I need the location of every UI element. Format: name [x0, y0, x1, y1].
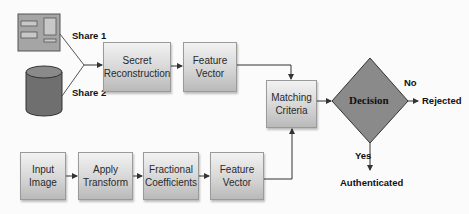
fractional-coefficients-box: Fractional Coefficients: [143, 152, 199, 200]
input-image-label: Input Image: [23, 163, 63, 189]
feature-vector-top-label: Feature Vector: [186, 54, 234, 80]
apply-transform-box: Apply Transform: [78, 152, 133, 200]
database-cylinder-icon: [26, 66, 62, 116]
input-image-box: Input Image: [20, 152, 66, 200]
apply-transform-label: Apply Transform: [81, 163, 130, 189]
matching-criteria-label: Matching Criteria: [269, 91, 314, 117]
matching-criteria-box: Matching Criteria: [266, 80, 317, 128]
no-branch-label: No: [404, 77, 417, 88]
secret-reconstruction-box: Secret Reconstruction: [103, 42, 171, 92]
fractional-coefficients-label: Fractional Coefficients: [145, 163, 197, 189]
flowchart-canvas: Share 1 Share 2 Secret Reconstruction Fe…: [0, 0, 469, 214]
feature-vector-bottom-label: Feature Vector: [213, 163, 261, 189]
document-icon: [18, 14, 60, 51]
rejected-label: Rejected: [422, 95, 462, 106]
feature-vector-top-box: Feature Vector: [183, 42, 237, 92]
feature-vector-bottom-box: Feature Vector: [210, 152, 264, 200]
authenticated-label: Authenticated: [340, 177, 403, 188]
decision-label: Decision: [349, 94, 389, 106]
yes-branch-label: Yes: [355, 150, 371, 161]
share2-label: Share 2: [72, 87, 106, 98]
share1-label: Share 1: [72, 30, 106, 41]
secret-reconstruction-label: Secret Reconstruction: [104, 54, 171, 80]
